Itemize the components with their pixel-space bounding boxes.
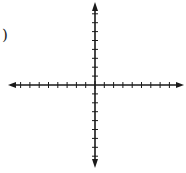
x-axis: [8, 81, 184, 89]
axes-graphic: [0, 0, 186, 173]
arrow-left-icon: [8, 82, 16, 88]
arrow-right-icon: [176, 82, 184, 88]
arrow-down-icon: [92, 159, 98, 168]
arrow-up-icon: [92, 2, 98, 11]
coordinate-plane: ): [0, 0, 186, 173]
